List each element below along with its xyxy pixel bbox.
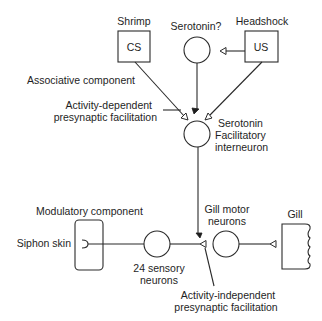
siphon-skin-box	[75, 220, 103, 270]
gill-organ-icon	[282, 224, 310, 269]
siphon-skin-label: Siphon skin	[17, 237, 71, 249]
annotation-pointer	[205, 248, 214, 286]
us-label: US	[254, 41, 269, 53]
sensory-label-2: neurons	[140, 274, 178, 286]
sensory-label-1: 24 sensory	[133, 262, 185, 274]
motor-label-2: neurons	[208, 215, 246, 227]
cs-caption: Shrimp	[117, 15, 150, 27]
interneuron-label-1: Serotonin	[218, 117, 263, 129]
activity-independent-line1: Activity-independent	[181, 289, 276, 301]
interneuron-label-2: Facilitatory	[215, 129, 267, 141]
gill-motor-neuron	[213, 231, 239, 257]
interneuron-label-3: interneuron	[215, 141, 268, 153]
serotonin-caption: Serotonin?	[171, 20, 222, 32]
open-synapse-icon	[270, 241, 276, 248]
filled-synapse-icon	[196, 233, 202, 238]
serotonin-neuron	[184, 37, 210, 63]
cs-label: CS	[127, 41, 142, 53]
activity-dependent-line2: presynaptic facilitation	[54, 111, 157, 123]
open-synapse-icon	[200, 241, 206, 248]
activity-dependent-line1: Activity-dependent	[66, 99, 152, 111]
facilitatory-interneuron	[184, 121, 210, 147]
neural-circuit-diagram: Shrimp CS Serotonin? Headshock US Associ…	[0, 0, 322, 321]
us-to-interneuron-line	[210, 62, 262, 115]
activity-independent-line2: presynaptic facilitation	[174, 301, 277, 313]
open-synapse-icon	[220, 48, 226, 55]
associative-component-label: Associative component	[27, 74, 135, 86]
motor-label-1: Gill motor	[205, 203, 250, 215]
filled-synapse-icon	[192, 108, 199, 114]
sensory-neuron	[144, 231, 170, 257]
gill-label: Gill	[287, 208, 302, 220]
us-caption: Headshock	[236, 15, 289, 27]
modulatory-component-label: Modulatory component	[36, 205, 143, 217]
